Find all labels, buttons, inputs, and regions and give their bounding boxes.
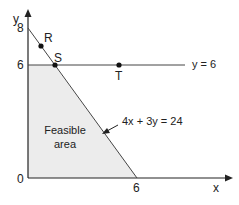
feasible-area-label-line1: Feasible [36,123,94,137]
y-axis-arrow-icon [25,9,32,17]
origin-label: 0 [17,173,24,185]
x-axis-label: x [213,182,219,194]
x-axis-arrow-icon [225,175,233,182]
point-r [38,43,43,48]
point-r-label: R [44,32,53,44]
line-4x-3y-24-label: 4x + 3y = 24 [122,116,183,127]
diagram-canvas [0,0,239,205]
point-s-label: S [54,52,62,64]
y-tick-6: 6 [17,59,24,71]
annotation-arrow-line [107,125,118,131]
line-y-6-label: y = 6 [192,59,216,70]
point-t [116,62,121,67]
point-t-label: T [115,70,122,82]
feasible-area-label: Feasible area [36,123,94,151]
feasible-area-label-line2: area [36,137,94,151]
y-tick-8: 8 [17,22,24,34]
x-tick-6: 6 [133,182,140,194]
